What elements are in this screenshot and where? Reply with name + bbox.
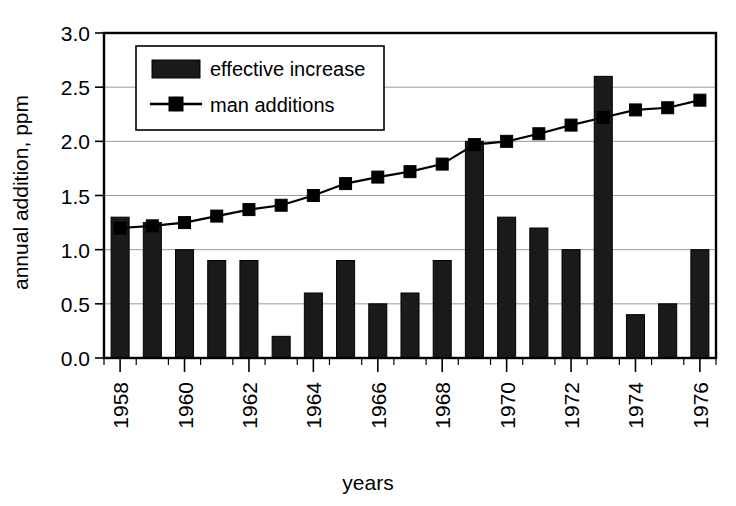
x-tick-label: 1960 <box>174 382 197 429</box>
y-axis-title: annual addition, ppm <box>9 95 32 290</box>
line-marker <box>179 217 191 229</box>
bar <box>176 250 194 358</box>
y-tick-label: 2.0 <box>61 130 90 153</box>
legend-label-man-additions: man additions <box>210 94 335 116</box>
line-marker <box>468 139 480 151</box>
legend-marker-man-additions <box>169 97 183 111</box>
x-tick-label: 1964 <box>302 382 325 429</box>
bar <box>401 293 419 358</box>
bar <box>433 261 451 359</box>
line-marker <box>694 94 706 106</box>
bar <box>562 250 580 358</box>
x-axis-title-group: years <box>342 471 393 494</box>
line-marker <box>243 204 255 216</box>
y-axis-ticks: 0.00.51.01.52.02.53.0 <box>61 22 104 370</box>
bar <box>465 141 483 358</box>
line-marker <box>629 104 641 116</box>
x-axis-ticks: 1958196019621964196619681970197219741976 <box>109 358 712 429</box>
bar <box>659 304 677 358</box>
bar <box>369 304 387 358</box>
bar <box>530 228 548 358</box>
line-marker <box>146 220 158 232</box>
line-marker <box>275 199 287 211</box>
line-marker <box>662 102 674 114</box>
x-tick-label: 1976 <box>689 382 712 429</box>
x-tick-label: 1966 <box>367 382 390 429</box>
line-marker <box>501 135 513 147</box>
bar <box>498 217 516 358</box>
line-marker <box>114 222 126 234</box>
line-marker <box>211 210 223 222</box>
legend-swatch-effective-increase <box>152 60 200 78</box>
y-tick-label: 3.0 <box>61 22 90 45</box>
line-marker <box>307 190 319 202</box>
x-tick-label: 1968 <box>431 382 454 429</box>
bar <box>626 315 644 358</box>
bar <box>240 261 258 359</box>
bar <box>208 261 226 359</box>
y-tick-label: 0.0 <box>61 347 90 370</box>
x-tick-label: 1974 <box>624 382 647 429</box>
line-marker <box>533 128 545 140</box>
line-marker <box>565 119 577 131</box>
x-tick-label: 1972 <box>560 382 583 429</box>
y-axis-title-group: annual addition, ppm <box>9 95 32 290</box>
chart-legend: effective increaseman additions <box>136 46 384 130</box>
bar <box>304 293 322 358</box>
y-tick-label: 2.5 <box>61 76 90 99</box>
x-tick-label: 1958 <box>109 382 132 429</box>
y-tick-label: 0.5 <box>61 293 90 316</box>
legend-label-effective-increase: effective increase <box>210 58 365 80</box>
chart-canvas: annual addition, ppm years 0.00.51.01.52… <box>0 0 736 506</box>
line-marker <box>404 166 416 178</box>
x-tick-label: 1970 <box>496 382 519 429</box>
bar <box>337 261 355 359</box>
y-tick-label: 1.5 <box>61 185 90 208</box>
x-tick-label: 1962 <box>238 382 261 429</box>
line-marker <box>372 171 384 183</box>
line-marker <box>436 158 448 170</box>
bar <box>691 250 709 358</box>
line-marker <box>597 112 609 124</box>
chart-figure: annual addition, ppm years 0.00.51.01.52… <box>0 0 736 506</box>
y-tick-label: 1.0 <box>61 239 90 262</box>
bar <box>143 223 161 358</box>
bar <box>272 336 290 358</box>
x-axis-title: years <box>342 471 393 494</box>
bar <box>111 217 129 358</box>
line-marker <box>340 178 352 190</box>
